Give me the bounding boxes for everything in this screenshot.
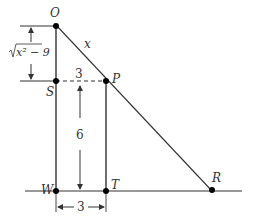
- label-P: P: [111, 72, 121, 86]
- point-T: [103, 188, 109, 194]
- width-label: 3: [77, 200, 85, 214]
- label-O: O: [50, 6, 60, 20]
- point-W: [53, 188, 59, 194]
- label-T: T: [111, 178, 120, 192]
- point-O: [53, 23, 59, 29]
- hypotenuse-label: x: [84, 37, 91, 51]
- point-R: [209, 187, 215, 193]
- segment-OR: [56, 25, 212, 191]
- top-segment-label: 3: [75, 67, 83, 81]
- label-W: W: [41, 183, 55, 197]
- label-S: S: [46, 85, 54, 99]
- label-R: R: [211, 171, 221, 185]
- point-P: [103, 78, 109, 84]
- left-dimension-label: x² − 9: [16, 46, 50, 59]
- point-S: [53, 78, 59, 84]
- geometry-diagram: x² − 9 6 3 3 x O S P W T R: [0, 0, 253, 219]
- height-label: 6: [76, 128, 84, 142]
